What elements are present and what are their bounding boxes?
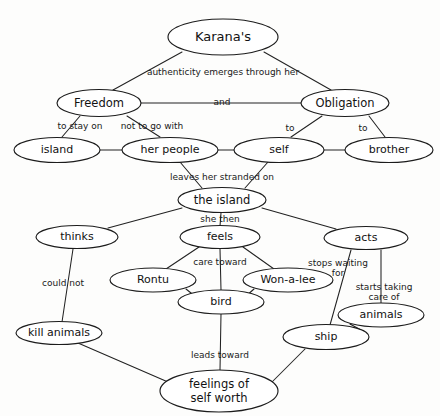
edge-obligation-to-self [291,116,322,137]
node-label-island: island [41,143,74,156]
node-obligation[interactable]: Obligation [301,90,389,117]
node-brother[interactable]: brother [345,138,433,163]
node-feelings[interactable]: feelings ofself worth [160,370,278,412]
edge-label-lbl-to-stay-on: to stay on [57,121,102,131]
node-rontu[interactable]: Rontu [110,268,196,292]
edge-the-island-to-acts [262,208,336,229]
edge-label-lbl-she-then: she then [200,214,239,224]
node-label-feelings: feelings ofself worth [189,376,250,404]
node-kill-animals[interactable]: kill animals [16,322,102,345]
edge-label-lbl-starts-taking: starts takingcare of [356,281,413,302]
edge-label-lbl-authenticity: authenticity emerges through her [147,67,300,77]
node-label-freedom: Freedom [74,96,124,110]
node-label-karanas: Karana's [195,29,251,44]
node-label-thinks: thinks [60,230,94,243]
node-acts[interactable]: acts [324,227,408,250]
edge-label-lbl-and: and [214,97,231,107]
node-label-obligation: Obligation [315,96,374,110]
node-thinks[interactable]: thinks [36,226,118,249]
concept-map-canvas: Karana'sFreedomObligationislandher peopl… [0,0,440,416]
edge-feels-to-bird [220,249,221,290]
edge-obligation-to-brother [369,116,385,137]
edge-kill-animals-to-feelings [78,343,168,382]
node-bird[interactable]: bird [178,290,264,314]
edge-label-lbl-leads-toward: leads toward [191,350,249,360]
node-label-ship: ship [315,330,338,343]
edge-label-lbl-stranded: leaves her stranded on [170,172,274,182]
node-label-bird: bird [210,295,231,308]
node-label-kill-animals: kill animals [28,326,90,339]
edge-bird-to-feelings [220,314,221,370]
concept-map-graph: Karana'sFreedomObligationislandher peopl… [0,0,440,416]
edge-label-lbl-to-self: to [285,123,295,133]
node-won-a-lee[interactable]: Won-a-lee [243,268,333,292]
node-label-brother: brother [369,143,410,156]
node-ship[interactable]: ship [283,325,369,350]
edge-label-lbl-could-not: could not [42,278,84,288]
node-label-acts: acts [355,231,378,244]
edge-label-lbl-care-toward: care toward [193,257,247,267]
node-label-rontu: Rontu [137,273,169,286]
node-her-people[interactable]: her people [122,138,218,163]
node-label-won-a-lee: Won-a-lee [260,273,315,286]
node-label-self: self [269,143,290,156]
node-animals[interactable]: animals [338,303,424,327]
node-self[interactable]: self [234,138,324,163]
node-feels[interactable]: feels [180,226,260,249]
edge-the-island-to-thinks [108,208,182,228]
edge-ship-to-feelings [272,349,305,382]
edge-feels-to-won-a-lee [243,247,274,269]
edge-label-lbl-not-to-go: not to go with [121,121,184,131]
node-label-her-people: her people [140,143,199,156]
node-label-animals: animals [359,308,402,321]
node-island[interactable]: island [14,138,100,163]
node-label-the-island: the island [194,193,251,207]
node-freedom[interactable]: Freedom [57,90,141,117]
edge-label-lbl-to-brother: to [358,123,368,133]
node-the-island[interactable]: the island [178,188,266,213]
node-karanas[interactable]: Karana's [168,19,278,55]
node-label-feels: feels [207,230,233,243]
